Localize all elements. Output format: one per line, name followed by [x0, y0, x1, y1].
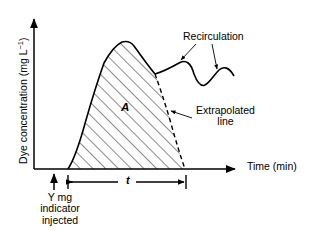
x-axis-label: Time (min) [247, 161, 297, 172]
recirculation-curve [155, 61, 234, 85]
duration-label: t [123, 175, 133, 187]
injection-label-line2: indicator [40, 202, 80, 214]
extrapolated-line-label-line2: line [217, 115, 233, 127]
extrapolated-leader-arrow [171, 111, 192, 118]
dye-dilution-curve-figure: Dye concentration (mg L−1) Time (min) A … [0, 0, 313, 231]
y-axis-label: Dye concentration (mg L−1) [18, 21, 29, 181]
y-axis-label-exponent: −1 [16, 41, 25, 50]
recirculation-leader-arrows [181, 44, 217, 69]
recirculation-label: Recirculation [183, 31, 244, 42]
extrapolated-line-label-line1: Extrapolated [196, 104, 255, 116]
injection-label: Y mgindicatorinjected [26, 192, 94, 226]
injection-label-line3: injected [42, 214, 78, 226]
extrapolated-line-label: Extrapolatedline [196, 105, 255, 128]
area-under-curve-label: A [121, 101, 129, 113]
injection-label-line1: Y mg [48, 191, 72, 203]
